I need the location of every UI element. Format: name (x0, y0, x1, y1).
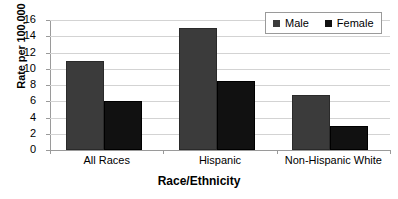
y-tick-label: 8 (6, 79, 36, 90)
y-tick-label: 4 (6, 112, 36, 123)
plot-area: 0246810121416 (50, 20, 390, 150)
y-tick-label: 6 (6, 95, 36, 106)
legend-label-female: Female (337, 17, 374, 29)
legend-label-male: Male (285, 17, 309, 29)
male-swatch-icon (273, 20, 280, 27)
gridline (50, 36, 390, 37)
bar-female-0 (104, 101, 142, 150)
x-category-separator (50, 150, 51, 154)
y-tick-label: 2 (6, 128, 36, 139)
legend-entry-male: Male (273, 17, 309, 29)
y-tick-mark (46, 20, 50, 21)
y-tick-mark (46, 101, 50, 102)
y-tick-mark (46, 118, 50, 119)
legend-entry-female: Female (325, 17, 374, 29)
bar-female-1 (217, 81, 255, 150)
y-tick-label: 10 (6, 63, 36, 74)
female-swatch-icon (325, 20, 332, 27)
y-tick-label: 14 (6, 30, 36, 41)
y-tick-label: 12 (6, 47, 36, 58)
x-category-separator (163, 150, 164, 154)
x-category-label: All Races (83, 154, 129, 166)
y-tick-mark (46, 85, 50, 86)
y-tick-mark (46, 69, 50, 70)
y-tick-label: 16 (6, 14, 36, 25)
gridline (50, 150, 390, 151)
bar-female-2 (330, 126, 368, 150)
y-tick-mark (46, 134, 50, 135)
chart-legend: Male Female (265, 12, 382, 34)
bar-male-0 (66, 61, 104, 150)
x-category-separator (390, 150, 391, 154)
y-tick-mark (46, 53, 50, 54)
gridline (50, 53, 390, 54)
bar-male-2 (292, 95, 330, 150)
x-axis-title: Race/Ethnicity (0, 174, 398, 188)
x-category-label: Hispanic (199, 154, 241, 166)
x-category-separator (277, 150, 278, 154)
y-tick-mark (46, 36, 50, 37)
y-tick-label: 0 (6, 144, 36, 155)
bar-chart: Rate per 100,000 0246810121416 Race/Ethn… (0, 0, 398, 199)
bar-male-1 (179, 28, 217, 150)
x-category-label: Non-Hispanic White (285, 154, 382, 166)
